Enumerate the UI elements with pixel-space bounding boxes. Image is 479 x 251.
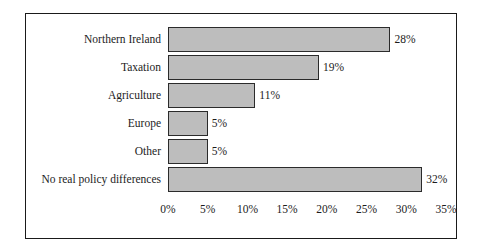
x-axis-tick-label: 20% [316,199,337,219]
x-axis-tick-label: 5% [200,199,215,219]
chart-frame: Northern Ireland28%Taxation19%Agricultur… [25,13,457,239]
bar-value-label: 5% [208,111,227,136]
bar-value-label: 32% [422,167,447,192]
x-axis-tick-label: 35% [435,199,456,219]
bar [168,167,422,192]
x-axis-tick-label: 30% [396,199,417,219]
bar-value-label: 5% [208,139,227,164]
bar-row: Agriculture11% [168,83,446,108]
x-axis-tick-label: 0% [160,199,175,219]
category-label: Europe [128,111,168,136]
bar-row: No real policy differences32% [168,167,446,192]
x-axis-tick-label: 10% [237,199,258,219]
bar-row: Taxation19% [168,55,446,80]
bar-row: Northern Ireland28% [168,27,446,52]
category-label: No real policy differences [41,167,168,192]
bar [168,27,390,52]
bar [168,55,319,80]
bar-row: Europe5% [168,111,446,136]
bar-value-label: 28% [390,27,415,52]
bar [168,83,255,108]
category-label: Other [135,139,168,164]
category-label: Agriculture [108,83,168,108]
bar-value-label: 19% [319,55,344,80]
category-label: Northern Ireland [84,27,168,52]
bar-value-label: 11% [255,83,280,108]
chart-figure: Northern Ireland28%Taxation19%Agricultur… [0,0,479,251]
category-label: Taxation [121,55,168,80]
bar [168,139,208,164]
bar [168,111,208,136]
bar-row: Other5% [168,139,446,164]
x-axis-tick-label: 15% [277,199,298,219]
x-axis: 0%5%10%15%20%25%30%35% [26,199,458,219]
x-axis-tick-label: 25% [356,199,377,219]
